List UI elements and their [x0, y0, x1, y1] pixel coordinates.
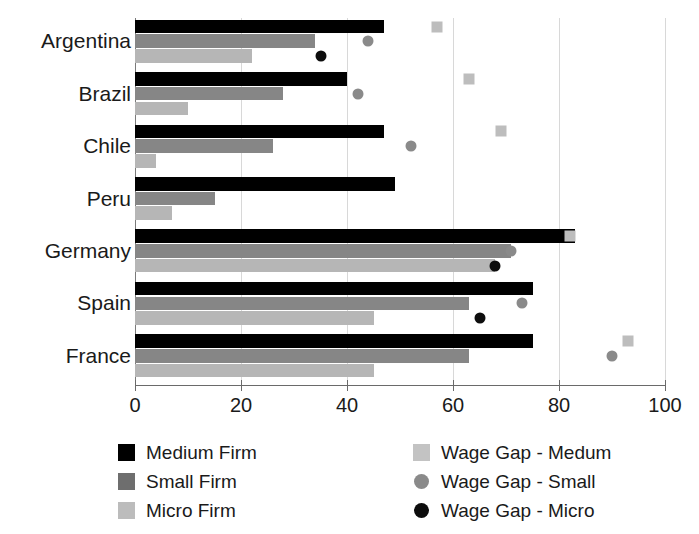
bar-micro-firm-brazil	[135, 102, 188, 116]
x-tick-100	[665, 380, 666, 391]
marker-wage-gap-micro-germany	[490, 260, 501, 271]
gridline-60	[453, 18, 454, 385]
legend-item-small-firm[interactable]: Small Firm	[118, 467, 257, 496]
bar-medium-firm-chile	[135, 125, 384, 139]
legend-label-small-firm: Small Firm	[146, 471, 237, 493]
x-tick-label-0: 0	[129, 393, 140, 417]
bar-micro-firm-germany	[135, 259, 495, 273]
marker-wage-gap-small-brazil	[352, 88, 363, 99]
marker-wage-gap-medium-france	[622, 336, 633, 347]
bar-micro-firm-france	[135, 364, 374, 378]
gridline-40	[347, 18, 348, 385]
legend-swatch-wage-gap-micro-icon	[414, 503, 429, 518]
y-axis-category-labels: ArgentinaBrazilChilePeruGermanySpainFran…	[0, 0, 131, 534]
bar-medium-firm-germany	[135, 229, 575, 243]
legend-column-firms: Medium Firm Small Firm Micro Firm	[118, 438, 257, 525]
gridline-100	[665, 18, 666, 385]
legend-swatch-wage-gap-medium-icon	[413, 444, 430, 461]
x-tick-label-20: 20	[230, 393, 252, 417]
x-axis-line	[135, 385, 666, 386]
legend-label-wage-gap-medium: Wage Gap - Medum	[441, 442, 611, 464]
legend-label-wage-gap-micro: Wage Gap - Micro	[441, 500, 594, 522]
x-tick-label-60: 60	[442, 393, 464, 417]
gridline-80	[559, 18, 560, 385]
legend: Medium Firm Small Firm Micro Firm Wage G…	[118, 438, 678, 530]
bar-small-firm-brazil	[135, 87, 283, 101]
bar-small-firm-chile	[135, 139, 273, 153]
legend-label-medium-firm: Medium Firm	[146, 442, 257, 464]
legend-item-wage-gap-small[interactable]: Wage Gap - Small	[413, 467, 611, 496]
category-label-argentina: Argentina	[1, 29, 131, 53]
legend-column-wage-gap: Wage Gap - Medum Wage Gap - Small Wage G…	[413, 438, 611, 525]
marker-wage-gap-small-chile	[405, 141, 416, 152]
bar-micro-firm-peru	[135, 206, 172, 220]
legend-swatch-medium-firm-icon	[118, 444, 135, 461]
marker-wage-gap-small-france	[607, 350, 618, 361]
bar-medium-firm-france	[135, 334, 533, 348]
x-tick-60	[453, 380, 454, 391]
marker-wage-gap-medium-chile	[495, 126, 506, 137]
category-label-chile: Chile	[1, 134, 131, 158]
legend-swatch-wage-gap-small-icon	[414, 474, 429, 489]
marker-wage-gap-small-germany	[506, 245, 517, 256]
x-tick-label-80: 80	[548, 393, 570, 417]
marker-wage-gap-medium-germany	[564, 231, 575, 242]
x-tick-20	[241, 380, 242, 391]
bar-micro-firm-spain	[135, 311, 374, 325]
marker-wage-gap-micro-argentina	[315, 50, 326, 61]
bar-medium-firm-peru	[135, 177, 395, 191]
category-label-spain: Spain	[1, 291, 131, 315]
legend-label-micro-firm: Micro Firm	[146, 500, 236, 522]
legend-item-medium-firm[interactable]: Medium Firm	[118, 438, 257, 467]
plot-area	[135, 18, 665, 385]
bar-chart: 020406080100 ArgentinaBrazilChilePeruGer…	[0, 0, 699, 534]
category-label-germany: Germany	[1, 239, 131, 263]
legend-label-wage-gap-small: Wage Gap - Small	[441, 471, 596, 493]
bar-micro-firm-chile	[135, 154, 156, 168]
marker-wage-gap-small-spain	[516, 298, 527, 309]
category-label-brazil: Brazil	[1, 82, 131, 106]
legend-item-wage-gap-micro[interactable]: Wage Gap - Micro	[413, 496, 611, 525]
legend-swatch-small-firm-icon	[118, 473, 135, 490]
marker-wage-gap-micro-spain	[474, 313, 485, 324]
bar-medium-firm-spain	[135, 282, 533, 296]
bar-small-firm-argentina	[135, 34, 315, 48]
category-label-france: France	[1, 344, 131, 368]
category-label-peru: Peru	[1, 187, 131, 211]
x-tick-80	[559, 380, 560, 391]
bar-small-firm-germany	[135, 244, 511, 258]
bar-small-firm-peru	[135, 192, 215, 206]
marker-wage-gap-medium-argentina	[432, 21, 443, 32]
bar-small-firm-france	[135, 349, 469, 363]
legend-swatch-micro-firm-icon	[118, 502, 135, 519]
bar-medium-firm-argentina	[135, 20, 384, 34]
bar-medium-firm-brazil	[135, 72, 347, 86]
marker-wage-gap-medium-brazil	[463, 73, 474, 84]
x-tick-0	[135, 380, 136, 391]
x-tick-40	[347, 380, 348, 391]
x-tick-label-100: 100	[648, 393, 681, 417]
x-tick-label-40: 40	[336, 393, 358, 417]
legend-item-micro-firm[interactable]: Micro Firm	[118, 496, 257, 525]
bar-small-firm-spain	[135, 297, 469, 311]
legend-item-wage-gap-medium[interactable]: Wage Gap - Medum	[413, 438, 611, 467]
bar-micro-firm-argentina	[135, 49, 252, 63]
marker-wage-gap-small-argentina	[363, 36, 374, 47]
